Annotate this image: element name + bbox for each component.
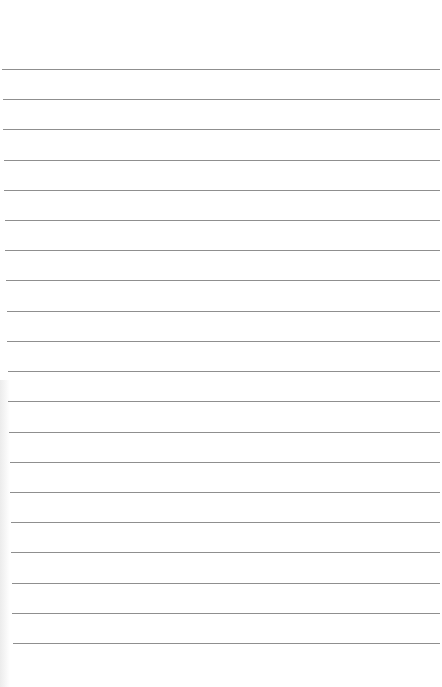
ruled-line [12, 613, 440, 614]
page-edge-shadow [0, 380, 10, 687]
ruled-line [4, 190, 440, 191]
ruled-line [5, 250, 440, 251]
ruled-line [7, 311, 440, 312]
ruled-line [10, 462, 440, 463]
ruled-line [3, 129, 440, 130]
ruled-line [7, 341, 440, 342]
ruled-line [4, 160, 440, 161]
ruled-line [3, 99, 440, 100]
ruled-line [11, 552, 440, 553]
ruled-line [11, 522, 440, 523]
lined-page [0, 0, 442, 687]
ruled-line [8, 371, 440, 372]
ruled-line [12, 583, 440, 584]
ruled-line [6, 280, 440, 281]
ruled-line [2, 69, 440, 70]
ruled-line [5, 220, 440, 221]
ruled-line [9, 432, 440, 433]
ruled-line [13, 643, 440, 644]
ruled-line [8, 401, 440, 402]
ruled-line [10, 492, 440, 493]
